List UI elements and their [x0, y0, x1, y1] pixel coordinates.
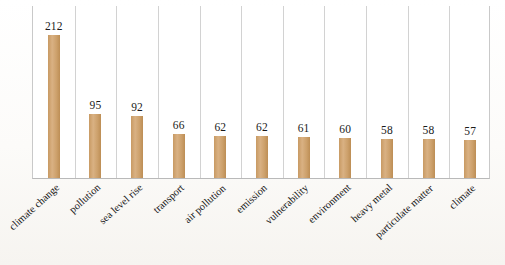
- category-tick-label: vulnerability: [263, 182, 310, 226]
- bar-slot: 95: [75, 6, 117, 178]
- category-labels: climate changepollutionsea level risetra…: [32, 180, 490, 262]
- bar-slot: 62: [200, 6, 242, 178]
- category-tick-label-text: vulnerability: [263, 182, 310, 226]
- category-tick-label-text: sea level rise: [97, 182, 145, 226]
- category-tick-label-text: climate: [447, 182, 477, 211]
- bar[interactable]: [48, 35, 60, 178]
- category-tick-label-text: air pollution: [182, 182, 228, 225]
- bar[interactable]: [173, 134, 185, 178]
- bar[interactable]: [381, 139, 393, 178]
- bars-layer: 21295926662626160585857: [33, 6, 489, 178]
- bar[interactable]: [464, 140, 476, 178]
- category-tick-label: sea level rise: [97, 182, 145, 226]
- bar-slot: 58: [366, 6, 408, 178]
- bar[interactable]: [214, 136, 226, 178]
- bar-slot: 66: [158, 6, 200, 178]
- plot-area: 21295926662626160585857: [32, 6, 490, 179]
- bar-slot: 60: [324, 6, 366, 178]
- bar-value-label: 92: [131, 101, 143, 113]
- bar-value-label: 57: [464, 125, 476, 137]
- category-tick-label-text: environment: [306, 182, 353, 226]
- bar[interactable]: [423, 139, 435, 178]
- category-tick-label: climate: [447, 182, 477, 211]
- bar-slot: 58: [408, 6, 450, 178]
- category-tick-label: climate change: [7, 182, 61, 233]
- bar-value-label: 66: [173, 119, 185, 131]
- category-tick-label: pollution: [67, 182, 103, 216]
- bar-value-label: 58: [381, 124, 393, 136]
- bar[interactable]: [256, 136, 268, 178]
- bar-value-label: 61: [298, 122, 310, 134]
- category-tick-label: emission: [234, 182, 269, 215]
- bar-slot: 212: [33, 6, 75, 178]
- bar[interactable]: [131, 116, 143, 178]
- bar-value-label: 62: [256, 121, 268, 133]
- category-tick-label-text: pollution: [67, 182, 103, 216]
- bar-value-label: 62: [214, 121, 226, 133]
- category-tick-label: air pollution: [182, 182, 228, 225]
- bar-slot: 61: [283, 6, 325, 178]
- category-tick-label: environment: [306, 182, 353, 226]
- bar-value-label: 212: [45, 20, 63, 32]
- category-tick-label-text: emission: [234, 182, 269, 215]
- bar-value-label: 95: [89, 99, 101, 111]
- category-tick-label: transport: [151, 182, 186, 215]
- bar-chart-figure: 21295926662626160585857 climate changepo…: [0, 0, 505, 265]
- bar[interactable]: [298, 137, 310, 178]
- category-tick-label-text: transport: [151, 182, 186, 215]
- bar-value-label: 58: [423, 124, 435, 136]
- bar-slot: 57: [449, 6, 491, 178]
- category-tick-label-text: climate change: [7, 182, 61, 233]
- bar-slot: 62: [241, 6, 283, 178]
- bar[interactable]: [89, 114, 101, 178]
- bar[interactable]: [339, 138, 351, 178]
- caption-strip: [0, 257, 505, 265]
- bar-slot: 92: [116, 6, 158, 178]
- bar-value-label: 60: [339, 123, 351, 135]
